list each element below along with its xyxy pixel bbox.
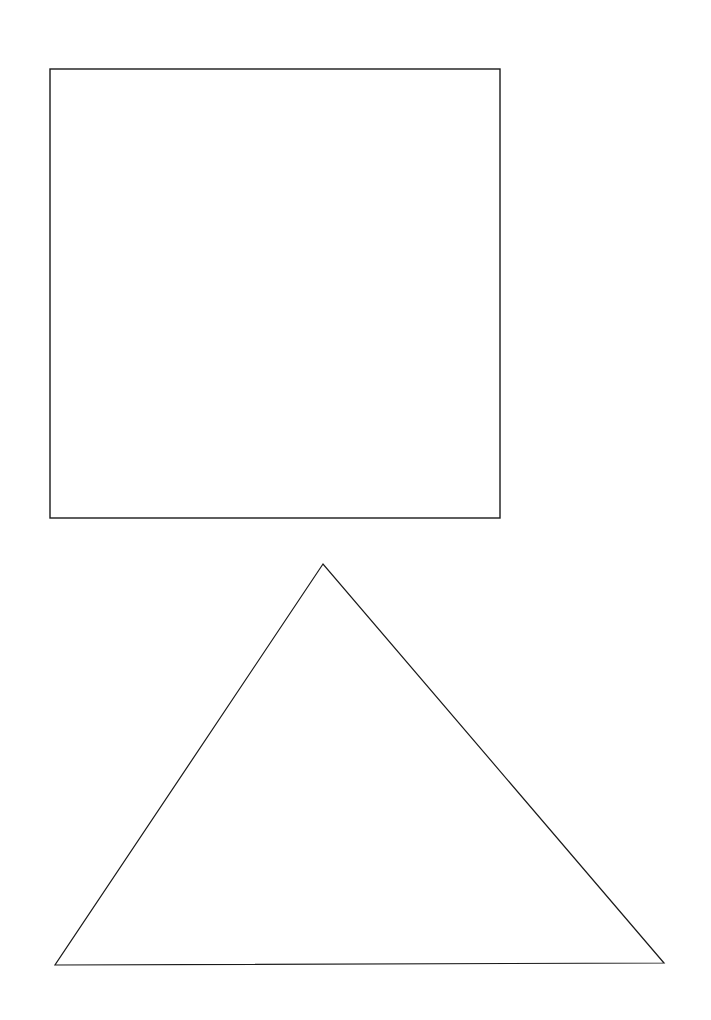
- drawing-canvas: [0, 0, 711, 1020]
- shapes-svg: [0, 0, 711, 1020]
- square-shape: [50, 69, 500, 518]
- triangle-shape: [55, 564, 664, 965]
